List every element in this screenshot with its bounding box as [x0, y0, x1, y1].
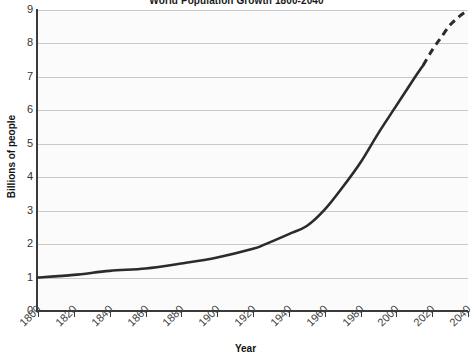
y-tick-label: 5	[3, 137, 33, 149]
y-axis-line	[36, 9, 38, 312]
x-axis-title: Year	[0, 343, 473, 354]
x-axis-title-text: Year	[235, 343, 256, 354]
gridline	[38, 10, 468, 11]
y-tick-label: 7	[3, 70, 33, 82]
y-tick-label: 6	[3, 103, 33, 115]
y-tick-label: 1	[3, 271, 33, 283]
y-tick-label: 8	[3, 36, 33, 48]
chart-title: World Population Growth 1800-2040	[0, 0, 473, 6]
gridline	[38, 211, 468, 212]
gridline	[38, 144, 468, 145]
gridline	[38, 278, 468, 279]
gridline	[38, 244, 468, 245]
population-growth-chart: World Population Growth 1800-2040 Billio…	[0, 0, 473, 363]
gridline	[38, 177, 468, 178]
gridline	[38, 110, 468, 111]
y-axis-tick-labels: 0123456789	[0, 10, 33, 311]
y-tick-label: 4	[3, 170, 33, 182]
gridline	[38, 77, 468, 78]
plot-area	[38, 10, 468, 311]
gridline	[38, 43, 468, 44]
y-tick-label: 3	[3, 204, 33, 216]
y-tick-label: 9	[3, 3, 33, 15]
y-tick-label: 2	[3, 237, 33, 249]
